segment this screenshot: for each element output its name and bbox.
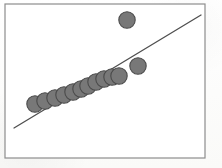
scatter-plot-figure xyxy=(0,0,222,168)
data-point-outlier-top xyxy=(119,12,135,28)
plot-canvas xyxy=(0,0,222,168)
data-point-outlier-right xyxy=(130,58,146,74)
data-point-p11 xyxy=(111,68,127,84)
